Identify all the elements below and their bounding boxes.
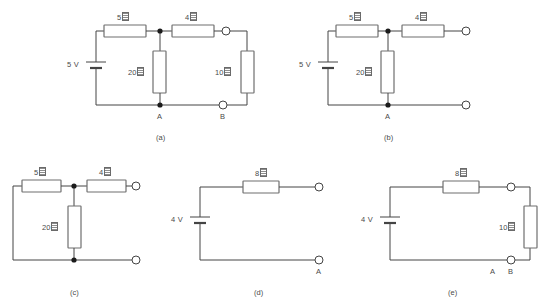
junction-b-bottom xyxy=(385,102,390,107)
ohm-symbol-icon xyxy=(365,67,372,76)
subfigure-c: 5 4 20 (c) xyxy=(0,155,160,307)
caption-a: (a) xyxy=(156,133,165,142)
label-d-source: 4 V xyxy=(171,215,183,224)
terminal-e-bottom-b xyxy=(507,256,515,264)
caption-e: (e) xyxy=(448,288,457,297)
wire-e-bottom-right-up xyxy=(515,248,530,260)
label-a-10ohm-value: 10 xyxy=(215,68,224,77)
caption-b: (b) xyxy=(384,133,393,142)
terminal-b-top-right xyxy=(462,27,470,35)
label-b-20ohm: 20 xyxy=(356,67,372,77)
terminal-d-top-right xyxy=(315,183,323,191)
label-d-8ohm: 8 xyxy=(255,168,267,178)
ohm-symbol-icon xyxy=(137,67,144,76)
resistor-b-5ohm xyxy=(336,25,378,37)
label-b-source: 5 V xyxy=(299,60,311,69)
label-d-8ohm-value: 8 xyxy=(255,169,259,178)
resistor-e-8ohm xyxy=(443,181,479,193)
circuit-diagram-figure: 5 4 20 10 5 V A B (a) xyxy=(0,0,552,307)
label-c-5ohm: 5 xyxy=(34,167,46,177)
resistor-c-4ohm xyxy=(87,180,126,192)
ohm-symbol-icon xyxy=(260,168,267,177)
terminal-c-top-right xyxy=(132,182,140,190)
ohm-symbol-icon xyxy=(224,67,231,76)
junction-a-bottom xyxy=(157,102,162,107)
caption-d: (d) xyxy=(254,288,263,297)
label-c-20ohm-value: 20 xyxy=(42,223,51,232)
subfigure-e: 8 10 4 V A B (e) xyxy=(355,155,552,307)
label-a-source: 5 V xyxy=(67,60,79,69)
junction-c-bottom xyxy=(71,257,76,262)
wire-a-right-down xyxy=(230,31,247,51)
label-a-10ohm: 10 xyxy=(215,67,231,77)
label-e-8ohm-value: 8 xyxy=(455,169,459,178)
label-b-4ohm: 4 xyxy=(415,12,427,22)
label-a-4ohm-value: 4 xyxy=(185,13,189,22)
wire-e-right-down xyxy=(515,187,530,206)
node-label-d-a: A xyxy=(316,267,321,276)
node-label-b-a: A xyxy=(385,112,390,121)
label-a-5ohm: 5 xyxy=(117,12,129,22)
label-a-5ohm-value: 5 xyxy=(117,13,121,22)
label-c-4ohm: 4 xyxy=(99,167,111,177)
label-a-20ohm-value: 20 xyxy=(128,68,137,77)
label-c-5ohm-value: 5 xyxy=(34,168,38,177)
label-e-8ohm: 8 xyxy=(455,168,467,178)
resistor-c-5ohm xyxy=(22,180,61,192)
resistor-a-20ohm xyxy=(153,51,166,93)
subfigure-c-svg xyxy=(0,155,160,307)
node-label-e-a: A xyxy=(490,267,495,276)
ohm-symbol-icon xyxy=(122,12,129,21)
junction-c-top xyxy=(71,183,76,188)
subfigure-d: 8 4 V A (d) xyxy=(160,155,360,307)
label-e-source: 4 V xyxy=(361,215,373,224)
resistor-c-20ohm xyxy=(68,206,81,248)
resistor-a-5ohm xyxy=(104,25,146,37)
terminal-c-bottom-right xyxy=(132,256,140,264)
resistor-a-10ohm xyxy=(241,51,254,93)
resistor-d-8ohm xyxy=(243,181,279,193)
label-b-5ohm-value: 5 xyxy=(349,13,353,22)
subfigure-b-svg xyxy=(276,0,506,150)
label-c-4ohm-value: 4 xyxy=(99,168,103,177)
subfigure-e-svg xyxy=(355,155,552,307)
ohm-symbol-icon xyxy=(420,12,427,21)
label-b-20ohm-value: 20 xyxy=(356,68,365,77)
resistor-a-4ohm xyxy=(172,25,214,37)
caption-c: (c) xyxy=(70,288,79,297)
resistor-b-20ohm xyxy=(381,51,394,93)
ohm-symbol-icon xyxy=(39,167,46,176)
ohm-symbol-icon xyxy=(460,168,467,177)
node-label-a-a: A xyxy=(157,112,162,121)
ohm-symbol-icon xyxy=(190,12,197,21)
label-e-10ohm-value: 10 xyxy=(499,223,508,232)
label-c-20ohm: 20 xyxy=(42,222,58,232)
node-label-a-b: B xyxy=(220,112,225,121)
terminal-e-top-right xyxy=(507,183,515,191)
junction-b-top xyxy=(385,28,390,33)
terminal-d-bottom-a xyxy=(315,256,323,264)
ohm-symbol-icon xyxy=(508,222,515,231)
ohm-symbol-icon xyxy=(104,167,111,176)
label-b-4ohm-value: 4 xyxy=(415,13,419,22)
terminal-b-bottom-right xyxy=(462,101,470,109)
resistor-b-4ohm xyxy=(402,25,444,37)
ohm-symbol-icon xyxy=(354,12,361,21)
label-e-10ohm: 10 xyxy=(499,222,515,232)
ohm-symbol-icon xyxy=(51,222,58,231)
terminal-a-top-right xyxy=(222,27,230,35)
label-b-5ohm: 5 xyxy=(349,12,361,22)
label-a-20ohm: 20 xyxy=(128,67,144,77)
wire-a-bottom-right xyxy=(227,93,247,105)
subfigure-b: 5 4 20 5 V A (b) xyxy=(276,0,506,150)
resistor-e-10ohm xyxy=(524,206,537,248)
node-label-e-b: B xyxy=(508,267,513,276)
label-a-4ohm: 4 xyxy=(185,12,197,22)
junction-a-top xyxy=(157,28,162,33)
subfigure-a: 5 4 20 10 5 V A B (a) xyxy=(0,0,276,150)
terminal-a-bottom-b xyxy=(219,101,227,109)
